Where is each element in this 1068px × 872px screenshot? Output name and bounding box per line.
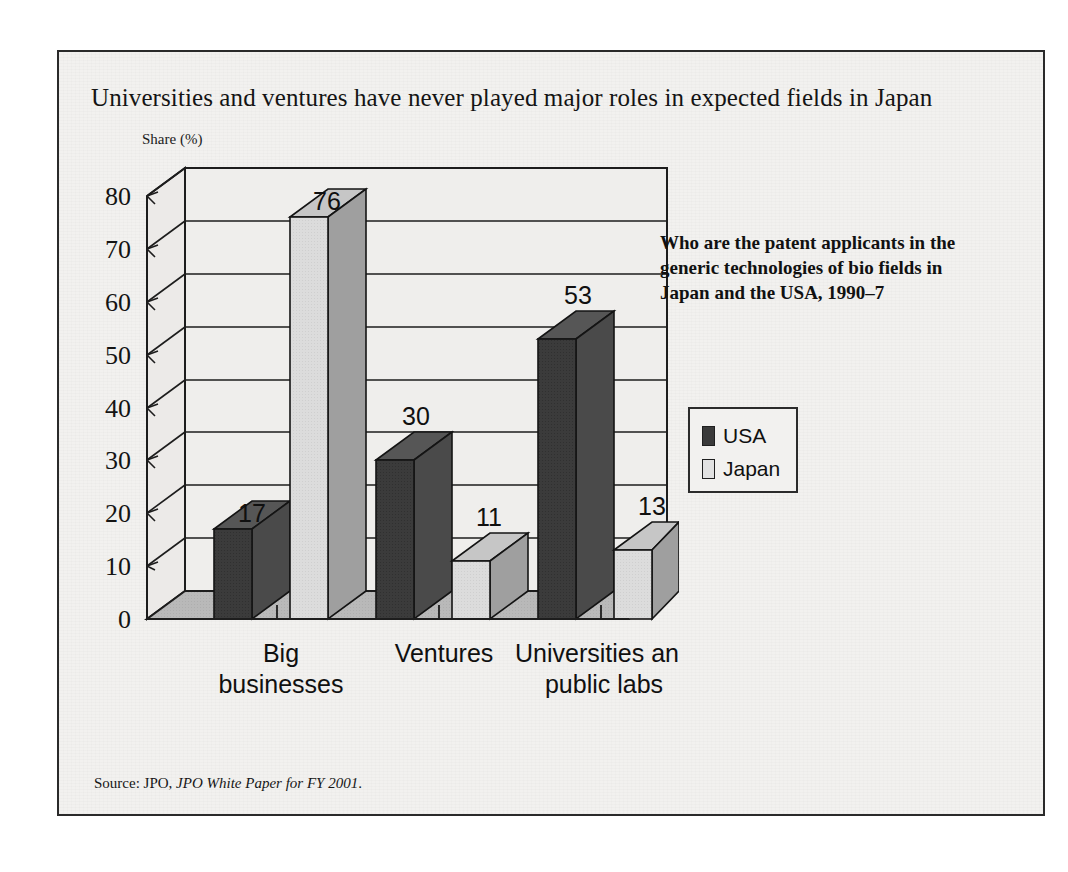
x-category-labels: Big businesses Ventures Universities and… [218, 639, 679, 698]
legend-label-japan: Japan [723, 458, 780, 479]
bar-chart-plot: 80 70 60 50 40 30 20 10 0 [59, 52, 679, 712]
value-label-usa-ventures: 30 [402, 402, 430, 430]
source-title-italic: JPO White Paper for FY 2001 [176, 775, 358, 791]
value-label-usa-big-businesses: 17 [238, 499, 266, 527]
category-label-universities-line2: public labs [545, 670, 663, 698]
source-prefix: Source: JPO, [94, 775, 176, 791]
chart-legend: USA Japan [688, 407, 798, 493]
y-tick-label: 70 [105, 235, 131, 264]
category-label-big-businesses-line2: businesses [218, 670, 343, 698]
y-tick-label: 80 [105, 182, 131, 211]
caption-line-2: generic technologies of bio fields in [660, 255, 980, 280]
category-label-big-businesses-line1: Big [263, 639, 299, 667]
legend-label-usa: USA [723, 425, 766, 446]
bar-usa-universities [538, 311, 614, 619]
value-label-usa-universities: 53 [564, 281, 592, 309]
chart-caption: Who are the patent applicants in the gen… [660, 230, 980, 305]
legend-swatch-usa [702, 426, 715, 446]
value-label-japan-universities: 13 [638, 492, 666, 520]
source-note: Source: JPO, JPO White Paper for FY 2001… [94, 775, 362, 792]
legend-item-japan: Japan [702, 452, 796, 485]
category-label-universities-line1: Universities and [515, 639, 679, 667]
y-tick-label: 60 [105, 288, 131, 317]
y-tick-label: 0 [118, 605, 131, 634]
caption-line-1: Who are the patent applicants in the [660, 230, 980, 255]
figure-frame: Universities and ventures have never pla… [57, 50, 1045, 816]
y-tick-label: 40 [105, 394, 131, 423]
caption-line-3: Japan and the USA, 1990–7 [660, 280, 980, 305]
bar-japan-big-businesses [290, 189, 366, 619]
y-tick-label: 20 [105, 499, 131, 528]
y-tick-label: 10 [105, 552, 131, 581]
y-tick-label: 50 [105, 341, 131, 370]
category-label-ventures-line1: Ventures [395, 639, 494, 667]
source-suffix: . [358, 775, 362, 791]
legend-swatch-japan [702, 459, 715, 479]
y-tick-labels: 80 70 60 50 40 30 20 10 0 [105, 182, 131, 634]
value-label-japan-big-businesses: 76 [313, 187, 341, 215]
bar-usa-ventures [376, 432, 452, 619]
value-label-japan-ventures: 11 [476, 503, 502, 531]
y-tick-label: 30 [105, 446, 131, 475]
legend-item-usa: USA [702, 419, 796, 452]
